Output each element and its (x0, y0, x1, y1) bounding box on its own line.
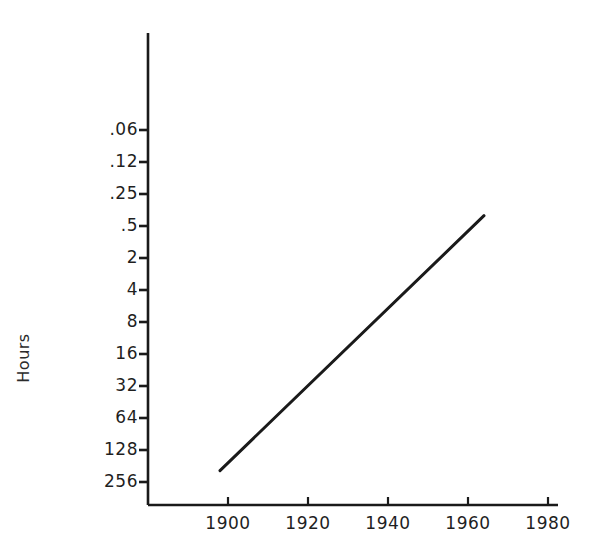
data-series-group (220, 216, 484, 471)
axis-lines (148, 33, 558, 505)
y-axis-ticks (139, 130, 148, 482)
chart-canvas (0, 0, 593, 556)
chart-figure: Hours .06.12.25.5248163264128256 1900192… (0, 0, 593, 556)
data-series-line (220, 216, 484, 471)
